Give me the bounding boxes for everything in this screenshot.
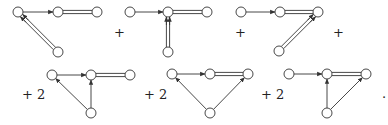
vertex-node [47, 70, 57, 80]
vertex-node [86, 70, 96, 80]
vertex-node [236, 7, 246, 17]
vertex-node [205, 108, 215, 118]
operator-plus: + [114, 25, 125, 40]
vertex-node [274, 46, 284, 56]
feynman-diagram-equation: ++++ 2+ 2+ 2. [0, 0, 388, 125]
operator-plus: + [235, 25, 246, 40]
vertex-node [284, 69, 294, 79]
vertex-node [125, 70, 135, 80]
operator-symbols: ++++ 2+ 2+ 2. [22, 25, 386, 102]
diagram-d6 [284, 69, 371, 118]
vertex-node [163, 7, 173, 17]
vertex-node [53, 7, 63, 17]
vertex-node [92, 7, 102, 17]
vertex-node [322, 69, 332, 79]
diagram-d5 [167, 69, 253, 118]
diagram-terms [13, 7, 371, 118]
vertex-node [167, 69, 177, 79]
vertex-node [322, 108, 332, 118]
diagram-d2 [125, 7, 212, 57]
propagator-arrow [175, 78, 206, 110]
vertex-node [275, 7, 285, 17]
operator-plus_two: + 2 [261, 87, 284, 102]
propagator-arrow [331, 78, 363, 110]
vertex-node [202, 7, 212, 17]
vertex-node [163, 47, 173, 57]
operator-plus_two: + 2 [22, 87, 45, 102]
vertex-node [125, 7, 135, 17]
operator-terminator: . [382, 86, 386, 101]
vertex-node [13, 7, 23, 17]
vertex-node [243, 69, 253, 79]
vertex-node [53, 47, 63, 57]
diagram-d3 [236, 7, 323, 56]
vertex-node [313, 7, 323, 17]
vertex-node [86, 108, 96, 118]
propagator-arrow [213, 78, 244, 110]
diagram-d1 [13, 7, 102, 57]
operator-plus_two: + 2 [144, 87, 167, 102]
operator-plus: + [333, 25, 344, 40]
propagator-arrow [56, 78, 88, 109]
vertex-node [205, 69, 215, 79]
vertex-node [361, 69, 371, 79]
diagram-d4 [47, 70, 135, 118]
